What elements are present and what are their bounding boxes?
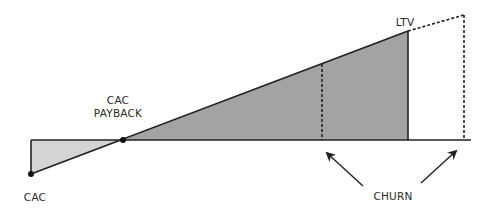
cac-point	[28, 171, 34, 177]
cac-payback-label-line2: PAYBACK	[94, 107, 143, 119]
extended-value-line	[408, 15, 464, 31]
churn-label: CHURN	[373, 190, 412, 202]
ltv-label: LTV	[396, 16, 415, 28]
cac-payback-label-line1: CAC	[107, 94, 129, 106]
churn-arrow-right	[421, 151, 456, 183]
cac-ltv-diagram: CAC CAC PAYBACK LTV CHURN	[0, 0, 496, 213]
cac-payback-point	[120, 137, 126, 143]
churn-arrow-left	[327, 153, 363, 186]
cac-label: CAC	[24, 191, 46, 203]
